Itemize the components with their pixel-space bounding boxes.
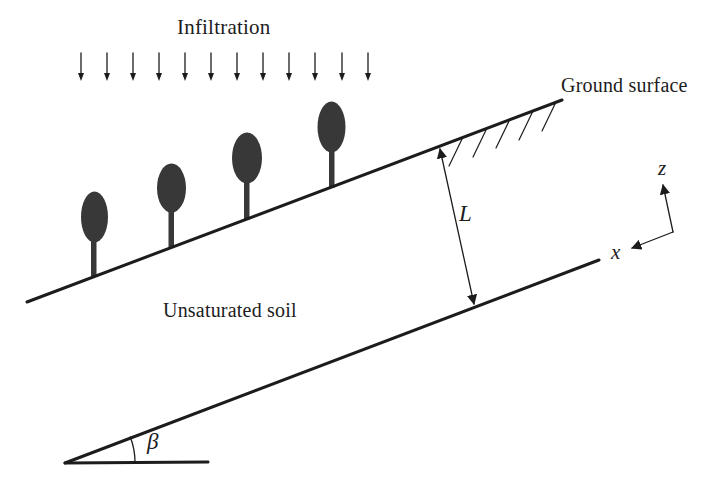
x-axis-arrow (632, 232, 673, 248)
x-axis-label: x (611, 242, 621, 263)
slope-angle-label: β (147, 430, 159, 453)
slope-angle-arc (130, 437, 135, 462)
coordinate-axes (632, 185, 673, 248)
tree (318, 102, 346, 189)
infiltration-arrow (78, 53, 84, 81)
tree (81, 192, 108, 278)
tree (157, 164, 186, 248)
z-axis-label: z (658, 158, 666, 179)
ground-surface-label: Ground surface (561, 75, 688, 95)
depth-label: L (459, 202, 472, 225)
trees (81, 102, 346, 278)
infiltration-arrow (286, 53, 292, 81)
infiltration-arrow (365, 53, 371, 81)
infiltration-arrow (339, 53, 345, 81)
infiltration-arrows (78, 53, 371, 81)
depth-dimension-arrow (440, 149, 474, 304)
figure-canvas: Infiltration Ground surface Unsaturated … (0, 0, 705, 494)
horizontal-base-line (65, 462, 208, 463)
ground-surface-line (27, 100, 562, 302)
lower-boundary-line (65, 260, 599, 463)
infiltration-arrow (208, 53, 214, 81)
infiltration-arrow (104, 53, 110, 81)
infiltration-arrow (234, 53, 240, 81)
infiltration-arrow (182, 53, 188, 81)
z-axis-arrow (663, 185, 673, 232)
infiltration-arrow (130, 53, 136, 81)
infiltration-label: Infiltration (177, 17, 270, 38)
infiltration-arrow (312, 53, 318, 81)
tree (232, 133, 262, 221)
infiltration-arrow (156, 53, 162, 81)
unsaturated-soil-label: Unsaturated soil (163, 300, 297, 320)
ground-hatch-marks (449, 102, 556, 166)
infiltration-arrow (260, 53, 266, 81)
